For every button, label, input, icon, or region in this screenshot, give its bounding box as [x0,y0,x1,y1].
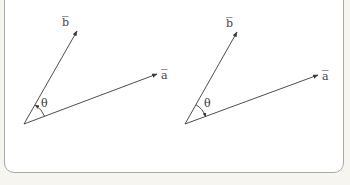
svg-text:a: a [161,69,168,82]
left-panel: θ b a [24,16,168,124]
vector-b-label: b [226,17,233,30]
right-panel: θ b a [185,17,329,124]
vector-b-line [185,32,237,124]
vector-b-line [24,31,77,124]
vector-angle-diagram: θ b a θ b a [0,0,350,185]
angle-theta-label: θ [204,97,211,110]
vector-a-label: a [322,70,329,83]
svg-text:b: b [226,17,233,30]
angle-theta-label: θ [41,97,48,110]
vector-a-label: a [161,69,168,82]
vector-b-label: b [62,16,69,29]
svg-text:b: b [62,16,69,29]
svg-text:a: a [322,70,329,83]
